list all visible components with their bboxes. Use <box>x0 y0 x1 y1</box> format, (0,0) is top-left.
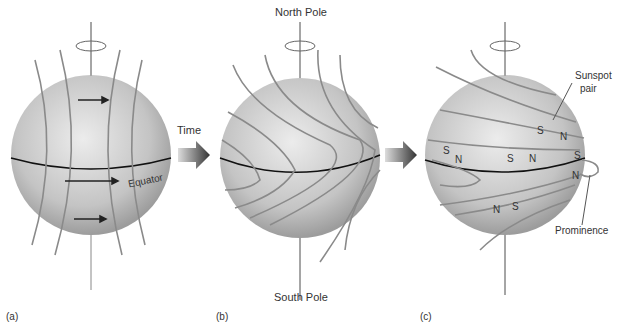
polarity-mark: N <box>455 154 462 165</box>
panel-label-b: (b) <box>216 311 228 322</box>
polarity-mark: S <box>537 125 544 136</box>
diagram-graphics <box>0 0 624 330</box>
time-arrow-icon <box>178 141 210 169</box>
polarity-mark: N <box>529 153 536 164</box>
panel-label-c: (c) <box>420 311 432 322</box>
sunspot-pair-label-2: pair <box>580 83 597 94</box>
south-pole-label: South Pole <box>274 291 328 303</box>
polarity-mark: N <box>572 170 579 181</box>
time-arrow-icon <box>385 141 417 169</box>
panel-a <box>11 22 171 290</box>
polarity-mark: N <box>493 204 500 215</box>
north-pole-label: North Pole <box>275 6 327 18</box>
polarity-mark: N <box>560 131 567 142</box>
sunspot-pair-label-1: Sunspot <box>575 70 612 81</box>
solar-magnetic-dynamo-diagram: (a) (b) (c) Time Equator North Pole Sout… <box>0 0 624 330</box>
polarity-mark: S <box>512 201 519 212</box>
panel-b <box>220 22 380 300</box>
prominence-pointer <box>582 175 590 225</box>
time-label: Time <box>177 124 201 136</box>
polarity-mark: S <box>443 145 450 156</box>
polarity-mark: S <box>574 150 581 161</box>
prominence-label: Prominence <box>555 225 608 236</box>
panel-label-a: (a) <box>6 311 18 322</box>
polarity-mark: S <box>507 153 514 164</box>
